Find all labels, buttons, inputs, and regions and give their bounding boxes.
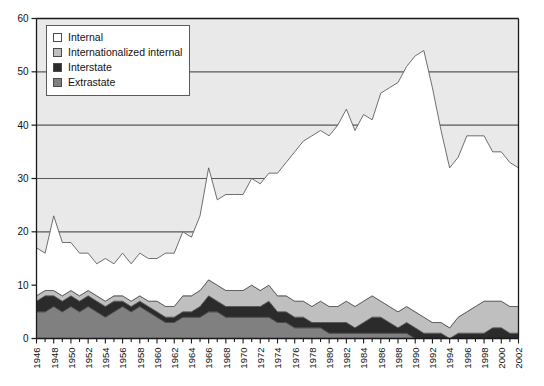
y-tick-label-20: 20 [17, 226, 29, 237]
x-tick-label-1950: 1950 [66, 348, 77, 369]
x-tick-label-1994: 1994 [444, 348, 455, 369]
x-tick-label-1964: 1964 [186, 348, 197, 369]
y-tick-label-50: 50 [17, 66, 29, 77]
x-tick-label-1970: 1970 [238, 348, 249, 369]
x-tick-label-1982: 1982 [341, 348, 352, 369]
legend-item-interstate: Interstate [53, 60, 182, 74]
y-tick-label-40: 40 [17, 120, 29, 131]
legend-item-label: Internationalized internal [68, 47, 182, 58]
x-tick-label-1978: 1978 [307, 348, 318, 369]
y-tick-label-30: 30 [17, 173, 29, 184]
x-tick-label-1972: 1972 [255, 348, 266, 369]
x-tick-label-1990: 1990 [410, 348, 421, 369]
x-tick-label-1962: 1962 [169, 348, 180, 369]
x-tick-label-1958: 1958 [135, 348, 146, 369]
x-tick-label-1946: 1946 [31, 348, 42, 369]
y-tick-label-0: 0 [23, 333, 29, 344]
legend-swatch-icon [53, 48, 62, 57]
x-tick-label-1998: 1998 [479, 348, 490, 369]
x-tick-label-1956: 1956 [117, 348, 128, 369]
y-tick-label-60: 60 [17, 13, 29, 24]
legend-item-label: Interstate [68, 62, 112, 73]
legend-swatch-icon [53, 78, 62, 87]
x-axis-ticks: 1946194819501952195419561958196019621964… [31, 339, 524, 369]
x-tick-label-1966: 1966 [203, 348, 214, 369]
x-tick-label-1984: 1984 [358, 348, 369, 369]
legend-item-internationalized-internal: Internationalized internal [53, 45, 182, 59]
x-tick-label-1976: 1976 [290, 348, 301, 369]
x-tick-label-1974: 1974 [272, 348, 283, 369]
x-tick-label-1980: 1980 [324, 348, 335, 369]
legend-item-extrastate: Extrastate [53, 75, 182, 89]
x-tick-label-2002: 2002 [513, 348, 524, 369]
x-tick-label-1986: 1986 [376, 348, 387, 369]
x-tick-label-1954: 1954 [100, 348, 111, 369]
legend-swatch-icon [53, 63, 62, 72]
x-tick-label-1960: 1960 [152, 348, 163, 369]
x-tick-label-1992: 1992 [427, 348, 438, 369]
chart-legend: InternalInternationalized internalInters… [46, 25, 190, 96]
y-tick-label-10: 10 [17, 280, 29, 291]
x-tick-label-2000: 2000 [496, 348, 507, 369]
legend-item-label: Internal [68, 32, 103, 43]
y-axis-ticks: 0102030405060 [17, 13, 36, 344]
x-tick-label-1968: 1968 [221, 348, 232, 369]
legend-item-internal: Internal [53, 30, 182, 44]
legend-swatch-icon [53, 33, 62, 42]
x-tick-label-1948: 1948 [49, 348, 60, 369]
x-tick-label-1952: 1952 [83, 348, 94, 369]
legend-item-label: Extrastate [68, 77, 115, 88]
x-tick-label-1996: 1996 [462, 348, 473, 369]
x-tick-label-1988: 1988 [393, 348, 404, 369]
chart-container: 0102030405060 19461948195019521954195619… [0, 0, 544, 386]
